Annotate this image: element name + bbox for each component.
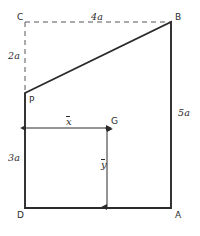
figure-canvas: [0, 0, 200, 236]
centroid-dot: [105, 126, 108, 129]
dimension-label-top-4a: 4a: [91, 12, 103, 22]
vertex-label-c: C: [17, 13, 23, 22]
dimension-label-y-bar: y: [101, 160, 107, 170]
shape-outline-PBAD: [25, 22, 171, 208]
dimension-label-left-3a: 3a: [8, 153, 20, 163]
vertex-label-d: D: [17, 211, 24, 220]
geometry-diagram: C B P G D A 4a 2a 3a 5a x y: [0, 0, 200, 236]
dimension-label-left-2a: 2a: [8, 51, 20, 61]
vertex-label-b: B: [175, 13, 181, 22]
dimension-label-right-5a: 5a: [178, 108, 190, 118]
vertex-label-a: A: [175, 211, 181, 220]
y-bar-overbar-text: y: [101, 160, 107, 170]
dimension-label-x-bar: x: [66, 117, 72, 127]
x-bar-overbar-text: x: [66, 117, 72, 127]
vertex-label-p: P: [29, 96, 35, 105]
vertex-label-g: G: [111, 117, 118, 126]
